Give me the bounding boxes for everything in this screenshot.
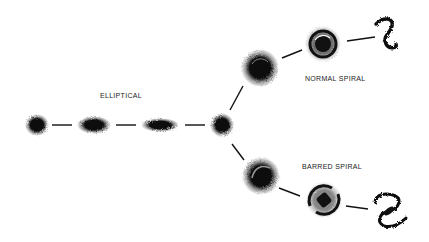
connector (279, 188, 300, 196)
galaxy-e0-icon (25, 114, 49, 136)
galaxy-sa-icon (241, 49, 279, 87)
galaxy-sc-icon (376, 19, 396, 48)
galaxy-sbb-icon (306, 182, 342, 218)
barred-spiral-label: BARRED SPIRAL (302, 163, 362, 170)
galaxy-e6-icon (141, 118, 179, 132)
normal-spiral-label: NORMAL SPIRAL (305, 75, 365, 82)
elliptical-label: ELLIPTICAL (100, 92, 142, 99)
connector (347, 37, 375, 41)
tuning-fork-diagram (0, 0, 429, 242)
galaxy-sbc-icon (375, 194, 406, 227)
galaxy-sb-icon (305, 26, 341, 62)
connector (282, 50, 302, 58)
connector (346, 206, 368, 209)
galaxy-e3-icon (77, 116, 111, 134)
galaxy-s0-icon (210, 113, 234, 137)
connector (232, 144, 244, 160)
galaxy-sba-icon (242, 157, 280, 195)
connector (230, 86, 243, 110)
